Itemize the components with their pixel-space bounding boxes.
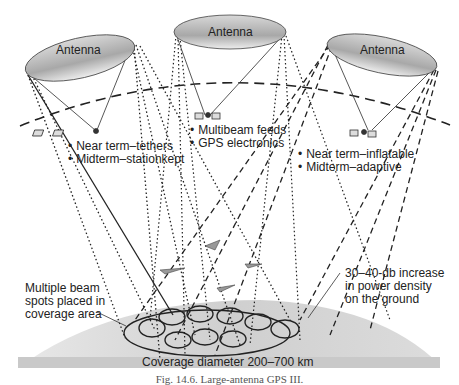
antenna-center: Antenna	[174, 15, 286, 49]
antenna-center-label: Antenna	[208, 25, 253, 39]
orbit-arc	[20, 83, 450, 126]
figure-caption: Fig. 14.6. Large-antenna GPS III.	[0, 373, 459, 385]
note-midterm-stationkept: Midterm–stationkept	[68, 153, 184, 166]
satellite-icon	[350, 130, 376, 138]
left-satellite-notes: Near term–tethers Midterm–stationkept	[68, 140, 184, 166]
left-beam-solid	[28, 75, 173, 315]
antenna-right: Antenna	[323, 26, 440, 84]
note-midterm-adaptive: Midterm–adaptive	[298, 161, 414, 174]
gps-antenna-diagram: Antenna Antenna Antenna	[0, 0, 459, 385]
beam-spots-callout: Multiple beam spots placed in coverage a…	[25, 282, 105, 321]
note-gps-electronics: GPS electronics	[190, 137, 286, 150]
center-satellite-notes: Multibeam feeds GPS electronics	[190, 124, 286, 150]
coverage-diameter-label: Coverage diameter 200–700 km	[142, 356, 313, 369]
antenna-left-label: Antenna	[56, 43, 101, 57]
power-density-callout: 30–40-db increase in power density on th…	[345, 267, 444, 306]
callout-line: on the ground	[345, 293, 444, 306]
satellite-icon	[195, 113, 220, 120]
antenna-left: Antenna	[21, 26, 139, 90]
aircraft-icons	[160, 240, 262, 292]
satellite-icon	[33, 129, 99, 137]
right-satellite-notes: Near term–inflatable Midterm–adaptive	[298, 148, 414, 174]
callout-line: coverage area	[25, 308, 105, 321]
antenna-right-label: Antenna	[360, 43, 405, 57]
